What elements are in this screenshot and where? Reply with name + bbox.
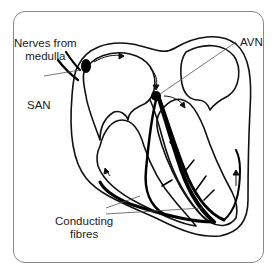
label-san: SAN [27,99,51,112]
right-atrium [83,53,155,140]
label-nerves-from-medulla: Nerves from medulla [14,37,77,63]
avn-node [151,91,161,101]
label-avn: AVN [240,36,263,49]
leader-lines [44,42,236,214]
label-line-2: medulla [14,50,77,63]
label-line-2: fibres [55,228,113,241]
label-line-1: Nerves from [14,37,77,50]
label-conducting-fibres: Conducting fibres [55,215,113,241]
left-atrium [181,46,239,110]
san-node [81,59,91,73]
left-ventricle [157,99,237,225]
label-line-1: Conducting [55,215,113,228]
